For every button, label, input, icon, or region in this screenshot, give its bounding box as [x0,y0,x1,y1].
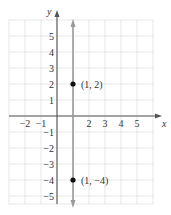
x-axis-arrow-icon [155,114,162,119]
points: (1, 2)(1, −4) [70,79,108,187]
y-axis-arrow-icon [55,10,60,17]
y-tick-label: 2 [49,79,54,90]
y-tick-label: −4 [43,175,54,186]
data-point [70,81,75,86]
y-tick-label: −3 [43,159,54,170]
data-point-label: (1, −4) [81,175,108,187]
coordinate-plane: −2−1234554321−1−2−3−4−5 (1, 2)(1, −4) x … [0,0,171,215]
data-point [70,177,75,182]
y-tick-label: −1 [43,127,54,138]
x-tick-label: −2 [20,118,31,129]
y-tick-label: −5 [43,191,54,202]
data-point-label: (1, 2) [81,79,103,91]
x-tick-label: 3 [103,118,108,129]
y-tick-label: 5 [49,31,54,42]
y-tick-label: −2 [43,143,54,154]
x-axis-label: x [161,118,167,129]
y-axis-label: y [46,6,52,17]
x-tick-label: 2 [87,118,92,129]
y-tick-label: 4 [49,47,54,58]
x-tick-label: 4 [119,118,124,129]
y-tick-label: 1 [49,95,54,106]
x-tick-label: 5 [135,118,140,129]
y-tick-label: 3 [49,63,54,74]
